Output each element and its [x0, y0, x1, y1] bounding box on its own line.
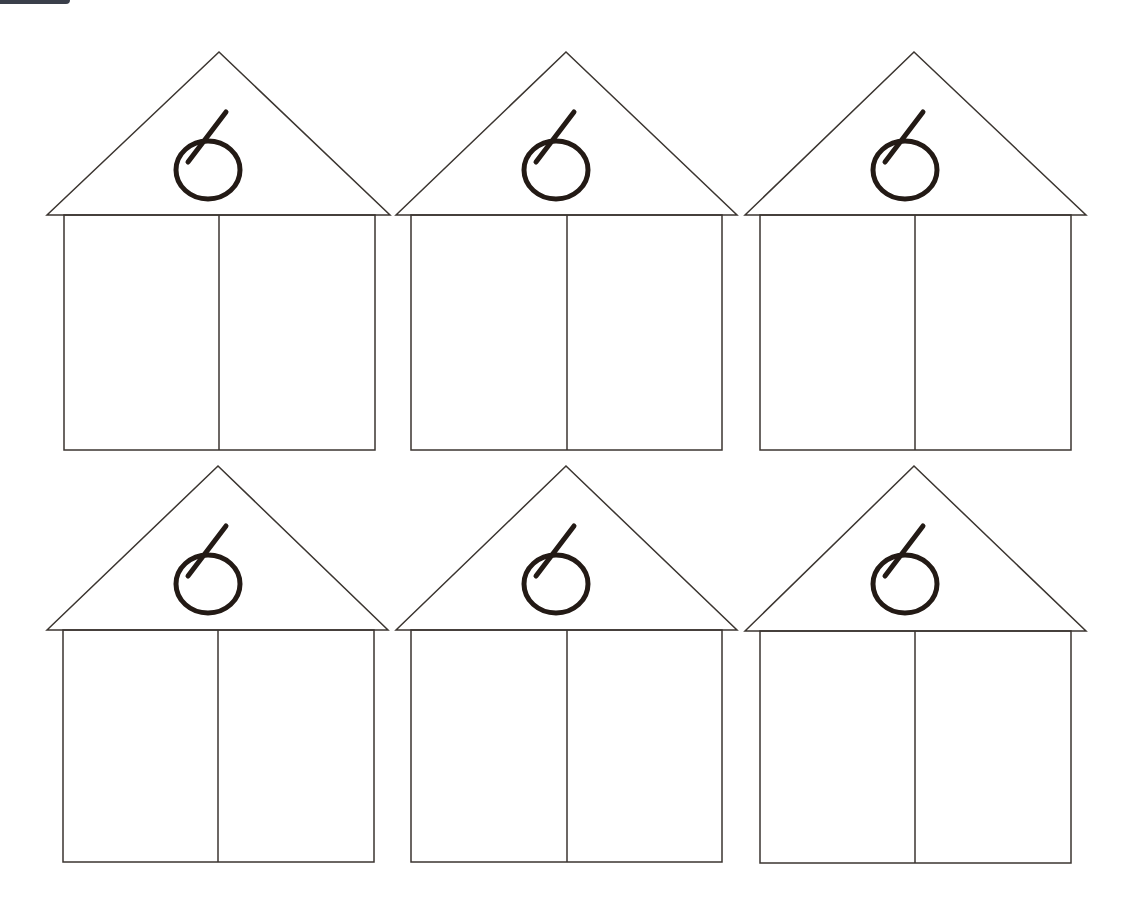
- number-houses-worksheet: [0, 0, 1130, 902]
- house-roof: [47, 52, 390, 215]
- house-roof: [396, 466, 737, 630]
- number-house: [745, 466, 1086, 863]
- house-roof: [745, 466, 1086, 631]
- number-house: [47, 466, 388, 862]
- left-answer-box[interactable]: [761, 632, 914, 862]
- left-answer-box[interactable]: [761, 216, 914, 449]
- house-roof: [745, 52, 1086, 215]
- number-house: [396, 52, 737, 450]
- house-roof: [47, 466, 388, 630]
- right-answer-box[interactable]: [916, 216, 1070, 449]
- number-house: [47, 52, 390, 450]
- left-answer-box[interactable]: [65, 216, 218, 449]
- right-answer-box[interactable]: [568, 216, 721, 449]
- number-house: [745, 52, 1086, 450]
- left-answer-box[interactable]: [64, 631, 217, 861]
- right-answer-box[interactable]: [219, 631, 373, 861]
- right-answer-box[interactable]: [568, 631, 721, 861]
- left-answer-box[interactable]: [412, 631, 566, 861]
- right-answer-box[interactable]: [220, 216, 374, 449]
- left-answer-box[interactable]: [412, 216, 566, 449]
- right-answer-box[interactable]: [916, 632, 1070, 862]
- house-roof: [396, 52, 737, 215]
- number-house: [396, 466, 737, 862]
